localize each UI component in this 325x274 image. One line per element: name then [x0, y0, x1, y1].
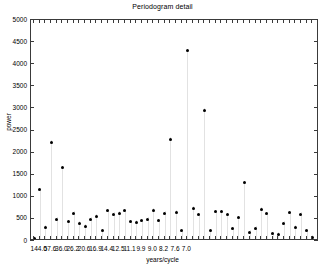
x-axis-tick-top: [113, 19, 114, 23]
y-axis-tick-label: 5000: [1, 16, 27, 23]
data-stem: [153, 208, 154, 239]
x-axis-tick-top: [243, 19, 244, 23]
x-axis-tick-top: [203, 19, 204, 23]
x-axis-tick: [101, 236, 102, 240]
x-axis-tick: [135, 236, 136, 240]
x-axis-tick: [67, 236, 68, 240]
y-axis-tick-label: 4000: [1, 60, 27, 67]
x-axis-tick-top: [61, 19, 62, 23]
data-point: [55, 218, 58, 221]
x-axis-tick: [84, 236, 85, 240]
x-axis-tick-top: [215, 19, 216, 23]
data-point: [157, 219, 160, 222]
data-point: [288, 211, 291, 214]
data-point: [146, 218, 149, 221]
y-axis-tick-label: 1500: [1, 170, 27, 177]
x-axis-tick: [113, 236, 114, 240]
x-axis-tick-top: [232, 19, 233, 23]
data-stem: [238, 216, 239, 239]
y-axis-tick-right: [314, 130, 318, 131]
x-axis-tick-top: [164, 19, 165, 23]
data-point: [197, 213, 200, 216]
x-axis-tick-top: [33, 19, 34, 23]
x-axis-tick: [272, 236, 273, 240]
data-point: [89, 218, 92, 221]
y-axis-tick-label: 3500: [1, 82, 27, 89]
data-point: [38, 188, 41, 191]
x-axis-tick-top: [277, 19, 278, 23]
data-point: [305, 229, 308, 232]
x-axis-tick-label: 7.0: [171, 245, 201, 253]
x-axis-tick: [249, 236, 250, 240]
x-axis-tick: [294, 236, 295, 240]
y-axis-tick-right: [314, 107, 318, 108]
x-axis-tick-top: [50, 19, 51, 23]
x-axis-tick: [61, 236, 62, 240]
x-axis-tick-top: [283, 19, 284, 23]
x-axis-tick-top: [44, 19, 45, 23]
x-axis-tick-top: [141, 19, 142, 23]
y-axis-tick: [30, 174, 34, 175]
data-point: [44, 226, 47, 229]
data-stem: [301, 212, 302, 239]
y-axis-tick: [30, 152, 34, 153]
x-axis-tick: [50, 236, 51, 240]
y-axis-tick: [30, 196, 34, 197]
x-axis-tick: [283, 236, 284, 240]
x-axis-tick: [198, 236, 199, 240]
y-axis-tick-label: 1000: [1, 192, 27, 199]
data-point: [84, 225, 87, 228]
x-axis-tick-top: [95, 19, 96, 23]
x-axis-tick-top: [181, 19, 182, 23]
x-axis-tick: [164, 236, 165, 240]
x-axis-tick: [78, 236, 79, 240]
data-point: [152, 209, 155, 212]
periodogram-figure: Periodogram detail power years/cycle 050…: [0, 0, 325, 274]
x-axis-tick-top: [198, 19, 199, 23]
x-axis-tick-top: [220, 19, 221, 23]
x-axis-tick: [243, 236, 244, 240]
x-axis-tick: [306, 236, 307, 240]
data-point: [101, 229, 104, 232]
x-axis-tick-top: [84, 19, 85, 23]
data-stem: [125, 209, 126, 239]
data-point: [209, 229, 212, 232]
data-stem: [204, 108, 205, 239]
data-stem: [193, 206, 194, 239]
y-axis-tick-right: [314, 41, 318, 42]
x-axis-tick: [266, 236, 267, 240]
x-axis-tick: [90, 236, 91, 240]
data-stem: [267, 212, 268, 239]
x-axis-tick: [141, 236, 142, 240]
data-point: [50, 141, 53, 144]
x-axis-tick: [192, 236, 193, 240]
data-point: [163, 212, 166, 215]
x-axis-tick: [289, 236, 290, 240]
x-axis-tick: [220, 236, 221, 240]
x-axis-tick-top: [175, 19, 176, 23]
x-axis-tick-top: [56, 19, 57, 23]
x-axis-tick-top: [289, 19, 290, 23]
x-axis-tick-top: [192, 19, 193, 23]
data-point: [299, 213, 302, 216]
x-axis-tick-top: [152, 19, 153, 23]
data-stem: [176, 210, 177, 239]
x-axis-tick-top: [300, 19, 301, 23]
x-axis-tick-top: [67, 19, 68, 23]
x-axis-tick-top: [118, 19, 119, 23]
x-axis-tick: [277, 236, 278, 240]
data-point: [72, 212, 75, 215]
x-axis-tick: [44, 236, 45, 240]
y-axis-tick-right: [314, 196, 318, 197]
x-axis-tick-top: [260, 19, 261, 23]
x-axis-tick-top: [130, 19, 131, 23]
plot-area: [30, 19, 318, 240]
data-point: [248, 231, 251, 234]
x-axis-tick: [147, 236, 148, 240]
x-axis-label: years/cycle: [0, 256, 325, 264]
x-axis-tick-top: [73, 19, 74, 23]
data-point: [95, 215, 98, 218]
x-axis-tick-top: [101, 19, 102, 23]
data-stem: [74, 211, 75, 239]
x-axis-tick: [203, 236, 204, 240]
